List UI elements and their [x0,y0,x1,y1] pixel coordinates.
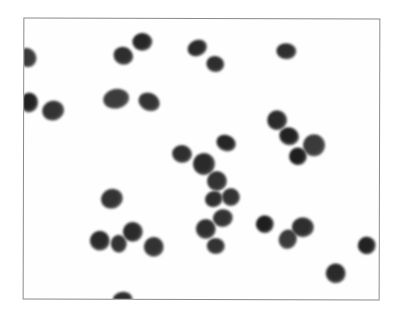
cell [324,261,348,285]
cell [292,217,314,237]
cell [205,54,226,73]
cell [207,171,227,191]
cell [98,186,125,212]
cell [171,144,193,165]
cell [220,186,242,208]
cell [142,235,165,258]
cell [135,89,163,115]
image-frame [23,18,381,301]
cell [112,290,134,300]
cell [23,44,40,70]
cell [214,132,239,154]
cell [355,234,379,258]
micrograph-canvas [0,0,396,316]
cell [276,43,297,60]
cell [185,37,210,60]
cell [132,33,153,52]
cell [87,228,112,253]
cell [206,237,225,254]
cell [254,213,276,235]
cell [40,98,67,123]
cell [111,44,136,68]
cell [102,87,131,112]
cell [23,92,40,114]
